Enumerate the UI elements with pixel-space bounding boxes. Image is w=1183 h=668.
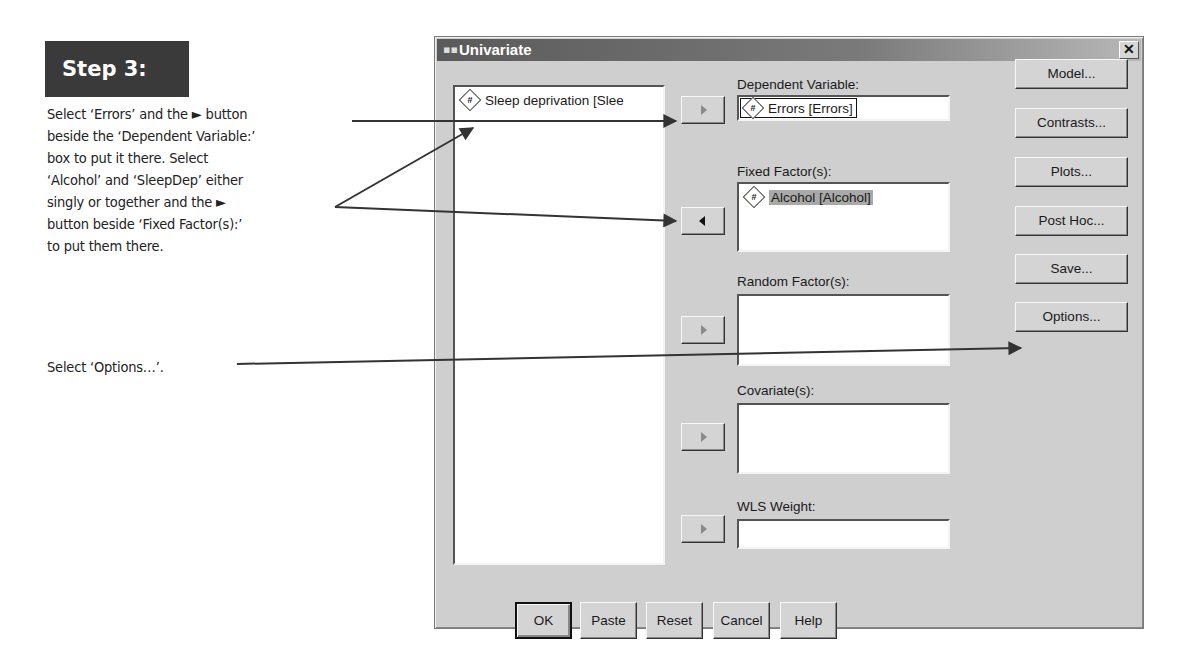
arrow-right-icon [701, 105, 707, 115]
instruction-line: to put them there. [47, 235, 255, 257]
instruction-paragraph-1: Select ‘Errors’ and the ► button beside … [47, 103, 255, 257]
fixed-factors-label: Fixed Factor(s): [737, 164, 832, 179]
variable-label: Alcohol [Alcohol] [769, 190, 873, 205]
wls-weight-label: WLS Weight: [737, 499, 816, 514]
save-button[interactable]: Save... [1015, 254, 1128, 284]
fixed-factors-list[interactable]: # Alcohol [Alcohol] [737, 182, 950, 252]
instruction-line: ‘Alcohol’ and ‘SleepDep’ either [47, 169, 255, 191]
covariates-label: Covariate(s): [737, 383, 814, 398]
move-to-dependent-button[interactable] [681, 96, 725, 124]
instruction-line: box to put it there. Select [47, 147, 255, 169]
dependent-variable-label: Dependent Variable: [737, 77, 859, 92]
arrow-right-icon [701, 432, 707, 442]
scale-variable-icon: # [742, 97, 765, 120]
list-item[interactable]: # Sleep deprivation [Slee [458, 91, 624, 109]
close-button[interactable]: ✕ [1119, 41, 1139, 59]
instruction-line: beside the ‘Dependent Variable:’ [47, 125, 255, 147]
random-factors-list[interactable] [737, 294, 950, 366]
instruction-line: singly or together and the ► [47, 191, 255, 213]
random-factors-label: Random Factor(s): [737, 274, 850, 289]
univariate-dialog: ▪▪ Univariate ✕ # Sleep deprivation [Sle… [434, 36, 1144, 629]
help-button[interactable]: Help [780, 602, 837, 639]
arrow-right-icon [701, 524, 707, 534]
wls-weight-field[interactable] [737, 519, 950, 549]
variable-label: Sleep deprivation [Slee [485, 93, 624, 108]
dependent-variable-field[interactable]: # Errors [Errors] [737, 95, 950, 121]
dialog-title: Univariate [459, 41, 532, 59]
arrow-right-icon [701, 325, 707, 335]
move-fixed-factor-button[interactable] [681, 207, 725, 235]
paste-button[interactable]: Paste [580, 602, 637, 639]
instruction-line: Select ‘Errors’ and the ► button [47, 103, 255, 125]
model-button[interactable]: Model... [1015, 59, 1128, 89]
reset-button[interactable]: Reset [646, 602, 703, 639]
move-to-random-button[interactable] [681, 316, 725, 344]
post-hoc-button[interactable]: Post Hoc... [1015, 206, 1128, 236]
move-to-covariate-button[interactable] [681, 423, 725, 451]
step-label: Step 3: [45, 41, 189, 97]
options-button[interactable]: Options... [1015, 302, 1128, 332]
ok-button[interactable]: OK [515, 602, 572, 639]
scale-variable-icon: # [743, 186, 766, 209]
plots-button[interactable]: Plots... [1015, 157, 1128, 187]
list-item[interactable]: # Alcohol [Alcohol] [742, 188, 873, 206]
title-bar[interactable]: ▪▪ Univariate ✕ [437, 39, 1141, 61]
instruction-line: Select ‘Options…’. [47, 356, 164, 378]
move-to-wls-button[interactable] [681, 515, 725, 543]
instruction-paragraph-2: Select ‘Options…’. [47, 356, 164, 378]
scale-variable-icon: # [459, 89, 482, 112]
source-variable-list[interactable]: # Sleep deprivation [Slee [453, 85, 665, 565]
instruction-line: button beside ‘Fixed Factor(s):’ [47, 213, 255, 235]
cancel-button[interactable]: Cancel [713, 602, 770, 639]
covariates-list[interactable] [737, 403, 950, 474]
contrasts-button[interactable]: Contrasts... [1015, 108, 1128, 138]
app-icon: ▪▪ [443, 44, 457, 56]
dependent-variable-value[interactable]: # Errors [Errors] [740, 98, 857, 118]
arrow-left-icon [699, 216, 705, 226]
